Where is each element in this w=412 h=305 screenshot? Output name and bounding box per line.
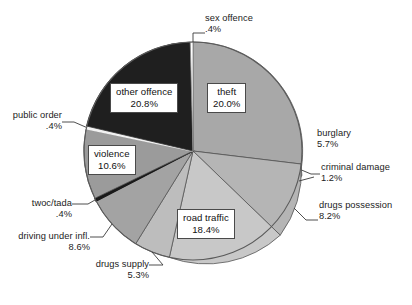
slice-label-drugs-supply: drugs supply 5.3% — [68, 259, 149, 281]
slice-label-theft: theft 20.0% — [207, 83, 246, 113]
slice-label-driving-under-infl-name: driving under infl. — [18, 231, 90, 241]
slice-label-sex-offence: sex offence .4% — [205, 13, 253, 35]
slice-label-sex-offence-pct: .4% — [205, 24, 253, 35]
slice-label-burglary-name: burglary — [317, 128, 351, 138]
slice-label-twoc-tada: twoc/tada .4% — [10, 198, 72, 220]
leader-line-public-order — [62, 122, 86, 127]
slice-label-road-traffic-pct: 18.4% — [183, 224, 229, 236]
slice-label-other-offence: other offence 20.8% — [110, 83, 178, 113]
slice-label-drugs-supply-pct: 5.3% — [68, 270, 149, 281]
slice-label-burglary: burglary 5.7% — [317, 128, 351, 150]
slice-label-theft-name: theft — [217, 86, 236, 97]
slice-label-public-order-pct: .4% — [2, 121, 62, 132]
slice-label-criminal-damage-name: criminal damage — [321, 162, 390, 172]
slice-label-other-offence-name: other offence — [116, 86, 172, 97]
slice-label-driving-under-infl-pct: 8.6% — [7, 242, 90, 253]
slice-label-twoc-tada-name: twoc/tada — [32, 198, 72, 208]
slice-label-burglary-pct: 5.7% — [317, 139, 351, 150]
pie-chart: other offence 20.8% theft 20.0% violence… — [0, 0, 412, 305]
slice-label-public-order: public order .4% — [2, 110, 62, 132]
slice-label-road-traffic-name: road traffic — [183, 212, 229, 223]
leader-line-twoc-tada — [72, 200, 96, 204]
slice-label-criminal-damage: criminal damage 1.2% — [321, 162, 390, 184]
slice-label-sex-offence-name: sex offence — [205, 13, 253, 23]
leader-line-driving-under-infl — [90, 224, 112, 237]
leader-line-criminal-damage — [302, 170, 321, 174]
slice-label-drugs-possession: drugs possession 8.2% — [319, 200, 392, 222]
slice-label-criminal-damage-pct: 1.2% — [321, 173, 390, 184]
slice-label-violence: violence 10.6% — [88, 145, 136, 175]
slice-label-theft-pct: 20.0% — [213, 98, 240, 110]
slice-label-drugs-possession-name: drugs possession — [319, 200, 392, 210]
slice-label-driving-under-infl: driving under infl. 8.6% — [7, 231, 90, 253]
leader-line-drugs-possession — [294, 208, 318, 220]
slice-label-violence-name: violence — [94, 148, 130, 159]
slice-label-violence-pct: 10.6% — [94, 160, 130, 172]
slice-label-twoc-tada-pct: .4% — [10, 209, 72, 220]
slice-label-other-offence-pct: 20.8% — [116, 98, 172, 110]
slice-label-public-order-name: public order — [13, 110, 62, 120]
slice-label-road-traffic: road traffic 18.4% — [177, 209, 235, 239]
leader-line-sex-offence — [193, 33, 205, 42]
pie-chart-canvas — [0, 0, 412, 305]
slice-label-drugs-supply-name: drugs supply — [96, 259, 149, 269]
slice-label-drugs-possession-pct: 8.2% — [319, 211, 392, 222]
